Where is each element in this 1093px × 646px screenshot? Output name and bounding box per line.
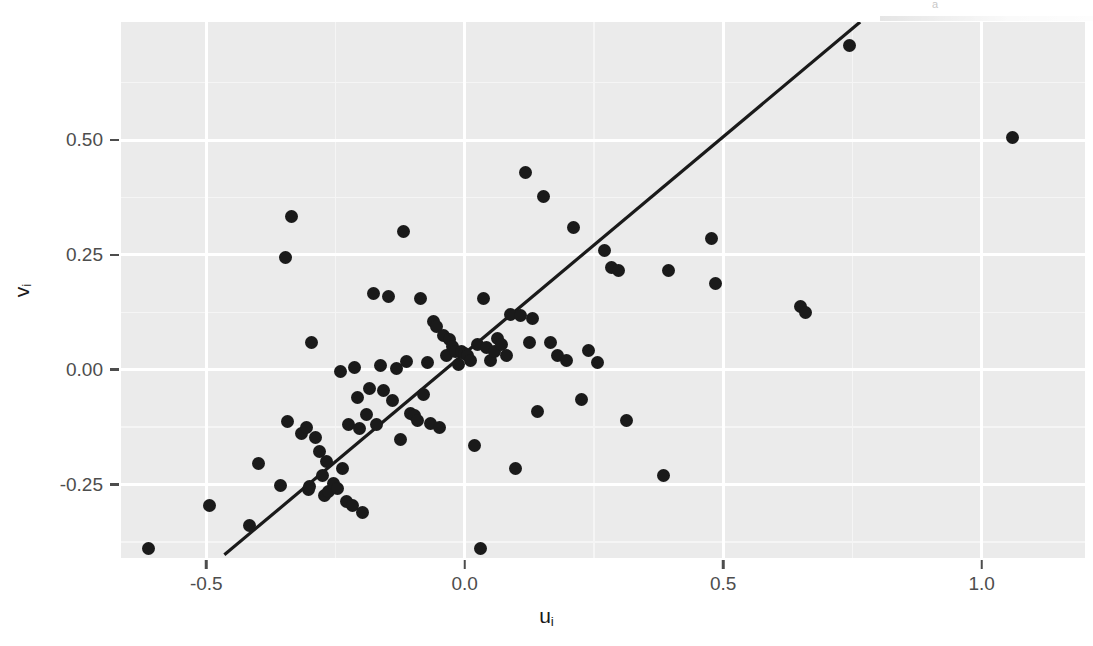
data-point — [203, 499, 216, 512]
data-point — [305, 336, 318, 349]
data-point — [474, 542, 487, 555]
data-point — [709, 277, 722, 290]
data-point — [356, 506, 369, 519]
data-point — [320, 455, 333, 468]
x-tick-mark — [722, 560, 725, 569]
y-tick-label: 0.50 — [66, 130, 103, 149]
data-point — [468, 439, 481, 452]
x-axis-title: ui — [0, 604, 1093, 629]
scan-artifact-smear — [880, 16, 1093, 21]
data-point — [620, 414, 633, 427]
data-point — [544, 336, 557, 349]
y-axis-title-text: v — [10, 287, 33, 298]
data-point — [500, 349, 513, 362]
x-tick-label: 0.5 — [710, 574, 736, 593]
data-point — [560, 354, 573, 367]
plot-panel — [121, 22, 1085, 558]
x-axis-title-subscript: i — [551, 614, 554, 629]
x-tick-mark — [980, 560, 983, 569]
scan-artifact-text: a — [932, 0, 939, 10]
x-tick-label: -0.5 — [190, 574, 223, 593]
y-axis-title-subscript: i — [19, 284, 34, 287]
data-point — [285, 210, 298, 223]
data-point — [351, 391, 364, 404]
data-point — [382, 290, 395, 303]
data-point — [514, 309, 527, 322]
data-point — [363, 382, 376, 395]
x-tick-mark — [463, 560, 466, 569]
data-point — [421, 356, 434, 369]
data-point — [598, 244, 611, 257]
data-point — [331, 482, 344, 495]
y-tick-mark — [110, 254, 119, 257]
y-axis-title: vi — [10, 260, 35, 320]
data-point — [243, 519, 256, 532]
data-point — [433, 421, 446, 434]
data-point — [309, 431, 322, 444]
y-tick-label: -0.25 — [60, 475, 103, 494]
data-point — [414, 292, 427, 305]
data-point — [523, 336, 536, 349]
scan-artifact: a — [880, 0, 1093, 22]
data-point — [334, 365, 347, 378]
data-point — [279, 251, 292, 264]
data-point — [509, 462, 522, 475]
data-point — [591, 356, 604, 369]
data-point — [575, 393, 588, 406]
data-point — [519, 166, 532, 179]
y-tick-mark — [110, 139, 119, 142]
data-point — [657, 469, 670, 482]
data-point — [477, 292, 490, 305]
regression-line — [121, 22, 1085, 558]
y-tick-mark — [110, 368, 119, 371]
data-point — [567, 221, 580, 234]
data-point — [531, 405, 544, 418]
x-tick-label: 0.0 — [452, 574, 478, 593]
x-axis-title-text: u — [539, 604, 551, 627]
scatter-plot-figure: a 0.500.250.00-0.25 -0.50.00.51.0 ui vi — [0, 0, 1093, 646]
x-tick-label: 1.0 — [968, 574, 994, 593]
y-tick-label: 0.00 — [66, 360, 103, 379]
x-tick-mark — [205, 560, 208, 569]
y-tick-mark — [110, 483, 119, 486]
y-tick-label: 0.25 — [66, 245, 103, 264]
data-point — [374, 359, 387, 372]
data-point — [411, 414, 424, 427]
data-point — [537, 190, 550, 203]
data-point — [526, 312, 539, 325]
